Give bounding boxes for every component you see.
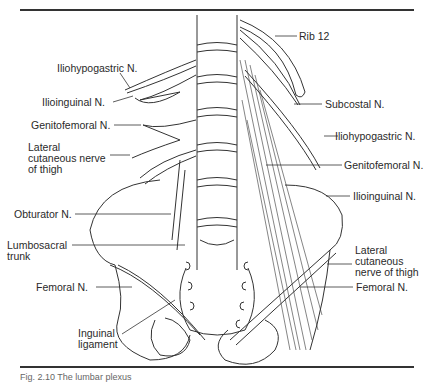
rib-12 (240, 20, 305, 97)
label-lateral-cutaneous-left: Lateral cutaneous nerve of thigh (28, 142, 106, 175)
label-obturator: Obturator N. (14, 209, 72, 220)
label-femoral-left: Femoral N. (36, 282, 88, 293)
psoas-muscle (240, 60, 322, 350)
label-subcostal: Subcostal N. (325, 99, 385, 110)
label-genitofemoral-left: Genitofemoral N. (31, 120, 110, 131)
label-ilioinguinal-left: Ilioinguinal N. (42, 97, 105, 108)
left-nerves (125, 60, 196, 250)
label-iliohypogastric-left: Iliohypogastric N. (57, 63, 138, 74)
label-lumbosacral-trunk: Lumbosacral trunk (7, 240, 67, 262)
label-inguinal-ligament: Inguinal ligament (78, 328, 118, 350)
leader-lines-left (72, 73, 185, 334)
label-rib-12: Rib 12 (299, 31, 329, 42)
label-ilioinguinal-right: Ilioinguinal N. (353, 191, 416, 202)
label-lateral-cutaneous-right: Lateral cutaneous nerve of thigh (355, 245, 419, 278)
label-iliohypogastric-right: Iliohypogastric N. (335, 131, 416, 142)
vertebral-column (197, 15, 237, 270)
label-genitofemoral-right: Genitofemoral N. (344, 160, 423, 171)
label-femoral-right: Femoral N. (356, 282, 408, 293)
figure-caption: Fig. 2.10 The lumbar plexus (20, 372, 131, 382)
